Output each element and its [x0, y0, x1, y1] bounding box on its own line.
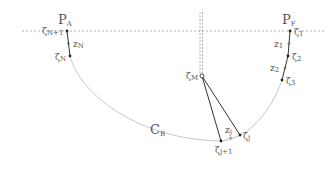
- label-zeta-1: ζ1: [294, 27, 303, 38]
- label-zeta-j1: ζj+1: [215, 145, 232, 156]
- ray-to-zeta-j1: [202, 76, 221, 141]
- label-z-2: z2: [270, 63, 279, 74]
- panel-method-diagram: PA PF CB ζN+1 ζN zN ζ1 ζ2 ζ3 z1 z2 ζM ζj…: [0, 0, 335, 169]
- node-zeta-2: [287, 55, 290, 58]
- label-p-a: PA: [58, 12, 73, 28]
- body-contour-curve: [70, 56, 282, 141]
- label-zeta-3: ζ3: [286, 76, 295, 87]
- label-zeta-j: ζj: [243, 131, 250, 142]
- node-zeta-j: [239, 134, 242, 137]
- node-zeta-n: [69, 55, 72, 58]
- label-p-f: PF: [282, 12, 296, 28]
- label-zeta-n: ζN: [55, 52, 66, 63]
- label-zeta-m: ζM: [186, 71, 198, 82]
- label-z-n: zN: [73, 39, 84, 50]
- node-zeta-1: [289, 30, 292, 33]
- node-zeta-3: [281, 79, 284, 82]
- node-zeta-m: [200, 74, 204, 78]
- node-zeta-j1: [220, 140, 223, 143]
- label-zeta-n1: ζN+1: [42, 26, 63, 37]
- ray-to-zeta-j: [202, 76, 240, 135]
- label-z-j: zj: [225, 125, 232, 136]
- node-zeta-n1: [66, 30, 69, 33]
- label-c-b: CB: [150, 122, 165, 138]
- label-zeta-2: ζ2: [292, 52, 301, 63]
- label-z-1: z1: [274, 39, 283, 50]
